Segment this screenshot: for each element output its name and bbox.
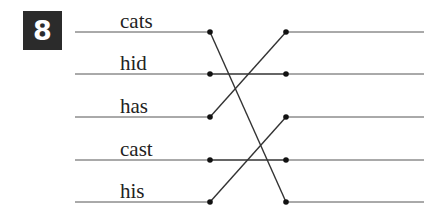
left-dot bbox=[207, 71, 213, 77]
word-label: has bbox=[120, 96, 148, 117]
right-dot bbox=[283, 71, 289, 77]
word-label: his bbox=[120, 181, 145, 202]
left-dot bbox=[207, 114, 213, 120]
right-dot bbox=[283, 114, 289, 120]
connector-lines bbox=[210, 32, 286, 202]
left-dot bbox=[207, 199, 213, 205]
word-label: cast bbox=[120, 139, 153, 160]
left-dot bbox=[207, 29, 213, 35]
right-answer-lines bbox=[286, 32, 424, 202]
right-dot bbox=[283, 29, 289, 35]
matching-diagram bbox=[0, 0, 447, 217]
left-dot bbox=[207, 157, 213, 163]
word-label: cats bbox=[120, 11, 153, 32]
connector-line bbox=[210, 32, 286, 202]
word-label: hid bbox=[120, 53, 147, 74]
right-dot bbox=[283, 199, 289, 205]
right-dot bbox=[283, 157, 289, 163]
